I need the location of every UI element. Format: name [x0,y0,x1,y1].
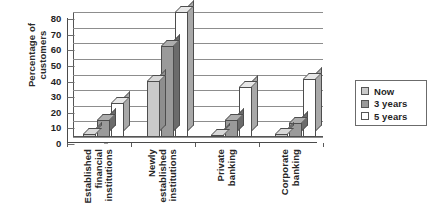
x-axis-label-line: banking [227,149,238,186]
bar [275,134,288,137]
x-axis-label-line: institutions [104,149,115,201]
bar-side-face [174,34,180,131]
x-axis-category-label: Newlyestablishedinstitutions [131,149,195,215]
bars-layer [67,12,323,143]
legend-swatch [361,112,369,120]
y-axis-tick-label: 50 [51,59,61,70]
y-axis-tick-label: 80 [51,13,61,24]
bar [211,135,224,137]
bar-front-face [275,134,288,137]
x-axis-tick-mark [131,143,132,147]
x-axis-tick-mark [67,143,68,147]
legend-label: 5 years [374,111,407,122]
legend-label: Now [374,86,394,97]
legend-item-3-years[interactable]: 3 years [361,98,426,111]
y-axis-tick-labels: 80706050403020100 [41,12,61,143]
y-axis-tick-label: 30 [51,91,61,102]
legend-item-now[interactable]: Now [361,85,426,98]
legend-swatch [361,100,369,108]
x-axis-label-line: institutions [168,149,179,201]
bar-chart: Percentage of customers 8070605040302010… [0,0,438,220]
bar [147,81,160,137]
x-axis-label-line: Established [83,149,94,203]
x-axis-tick-mark [323,143,324,147]
bar [83,134,96,137]
bar-front-face [83,134,96,137]
y-axis-tick-label: 40 [51,75,61,86]
bar-front-face [211,135,224,137]
y-axis-tick-label: 20 [51,106,61,117]
y-axis-tick-label: 70 [51,28,61,39]
x-axis-tick-mark [259,143,260,147]
y-axis-tick-label: 60 [51,44,61,55]
x-axis-tick-mark [195,143,196,147]
legend-item-5-years[interactable]: 5 years [361,110,426,123]
x-axis-category-label: Establishedfinancialinstitutions [67,149,131,215]
x-axis-category-label: Corporatebanking [259,149,323,215]
plot-area [67,12,323,143]
legend-swatch [361,87,369,95]
x-axis-label-line: Newly [147,149,158,177]
y-axis-tick-label: 0 [56,138,61,149]
x-axis-category-label: Privatebanking [195,149,259,215]
y-axis-tick-label: 10 [51,122,61,133]
bar-side-face [188,0,194,131]
bar-front-face [147,81,160,137]
x-axis-label-line: banking [291,149,302,186]
x-axis-category-labels: EstablishedfinancialinstitutionsNewlyest… [67,149,323,217]
legend: Now3 years5 years [355,80,427,126]
legend-label: 3 years [374,98,407,109]
